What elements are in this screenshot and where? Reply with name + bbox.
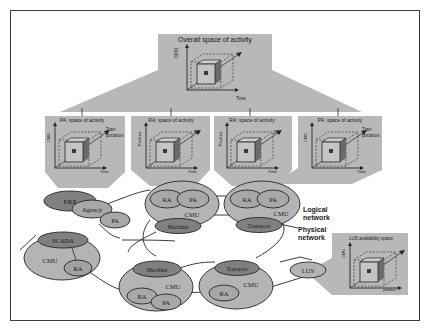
svg-text:CMU: CMU <box>185 211 200 218</box>
sub-panel-1: PA: space of activity CMU Time Tran- por… <box>45 116 125 188</box>
svg-text:RA: RA <box>162 196 171 203</box>
svg-text:PA: PA <box>274 130 280 135</box>
svg-text:PA: PA <box>111 217 119 224</box>
overall-x-axis-label: Time <box>236 96 246 101</box>
svg-text:CMU: CMU <box>46 133 51 142</box>
svg-text:RA: RA <box>242 196 251 203</box>
overall-y-axis-label: CMU <box>174 48 179 58</box>
overall-space-title: Overall space of activity <box>178 36 252 44</box>
svg-text:PA: PA <box>269 196 277 203</box>
svg-text:Time: Time <box>268 169 278 174</box>
svg-text:Transport: Transport <box>247 223 270 229</box>
logical-network-label: Logical <box>303 206 328 214</box>
svg-text:CMU: CMU <box>244 281 259 288</box>
svg-text:RA: RA <box>73 265 82 272</box>
svg-text:Agency: Agency <box>82 206 103 213</box>
svg-text:RA: RA <box>219 290 228 297</box>
svg-text:Tran-: Tran- <box>362 127 373 132</box>
svg-text:LUS availability space: LUS availability space <box>349 236 394 241</box>
svg-text:CMU: CMU <box>303 133 308 142</box>
lus-node: LUS <box>290 262 326 278</box>
svg-text:network: network <box>303 214 330 221</box>
svg-text:PA: space of activity: PA: space of activity <box>60 117 105 123</box>
svg-text:network: network <box>298 234 325 241</box>
sub-panel-2: RA: space of activity Product Time PA <box>131 116 210 186</box>
svg-text:RA: space of activity: RA: space of activity <box>229 117 275 123</box>
svg-text:Transport: Transport <box>226 266 248 272</box>
svg-text:Product: Product <box>218 131 223 146</box>
svg-text:portation: portation <box>106 133 124 138</box>
svg-text:RA: space of activity: RA: space of activity <box>148 117 194 123</box>
svg-text:PA: PA <box>189 196 197 203</box>
svg-text:Time: Time <box>188 169 198 174</box>
svg-text:SCADA: SCADA <box>52 237 74 244</box>
svg-text:product: product <box>383 287 397 292</box>
svg-text:portation: portation <box>362 133 380 138</box>
svg-text:PA: PA <box>194 130 200 135</box>
svg-text:RA: RA <box>137 293 146 300</box>
svg-text:Time: Time <box>100 169 110 174</box>
svg-text:Time: Time <box>357 169 367 174</box>
activity-space-diagram: Overall space of activity CMU Time PA: s… <box>0 0 428 330</box>
svg-text:Product: Product <box>137 131 142 146</box>
physical-network-label: Physical <box>298 226 326 234</box>
svg-text:CMU: CMU <box>166 283 181 290</box>
svg-text:Tran-: Tran- <box>106 127 117 132</box>
svg-text:PA: space of activity: PA: space of activity <box>318 117 363 123</box>
svg-text:CMU: CMU <box>341 249 346 258</box>
svg-text:LUS: LUS <box>302 267 315 274</box>
svg-text:Machine: Machine <box>168 224 189 230</box>
sub-panel-3: RA: space of activity Product Time PA <box>214 116 292 186</box>
svg-text:CMU: CMU <box>43 257 58 264</box>
svg-text:Machine: Machine <box>147 267 168 273</box>
svg-text:PA: PA <box>162 299 170 306</box>
svg-text:CMU: CMU <box>274 210 289 217</box>
